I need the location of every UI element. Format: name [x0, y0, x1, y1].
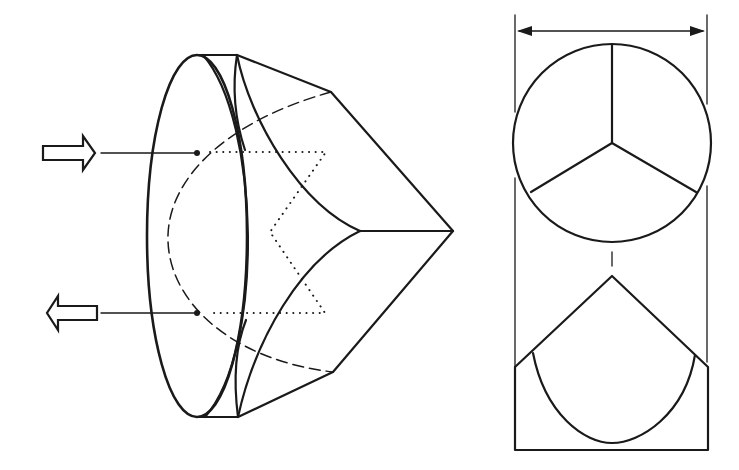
internal-ray-path [210, 152, 326, 313]
dimension-arrowhead-left-icon [517, 26, 532, 36]
bottom-facet-edge [238, 231, 453, 417]
front-view-edge-left [531, 143, 612, 192]
side-view-curve [533, 353, 695, 443]
side-view [515, 276, 708, 450]
dimension-arrowhead-right-icon [690, 26, 705, 36]
front-view-edge-right [612, 143, 696, 192]
outgoing-arrow-icon [47, 296, 97, 330]
front-view [513, 44, 711, 242]
corner-cube-diagram [0, 0, 739, 470]
outgoing-beam [47, 296, 200, 330]
incoming-arrow-icon [43, 136, 95, 170]
side-view-outline [515, 276, 708, 450]
inner-rim-arc [203, 55, 248, 417]
exit-point [194, 310, 200, 316]
upper-ridge-curve [237, 55, 360, 231]
top-facet-edge [237, 55, 453, 231]
incoming-beam [43, 136, 200, 170]
entry-point [194, 150, 200, 156]
perspective-view [147, 55, 453, 417]
hidden-back-rim [168, 92, 333, 372]
